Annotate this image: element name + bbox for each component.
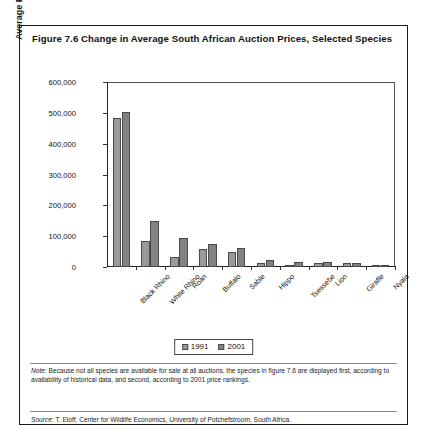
legend-swatch-2001 — [219, 344, 225, 350]
bar-1991 — [113, 118, 122, 267]
bar-group — [251, 82, 280, 267]
y-tick-label: 100,000 — [49, 232, 76, 241]
bar-1991 — [285, 265, 294, 267]
x-tick-mark — [395, 266, 396, 270]
source-label: Source: — [31, 416, 54, 423]
bar-1991 — [199, 249, 208, 267]
figure-source: Source: T. Eloff, Center for Wildlife Ec… — [31, 416, 397, 425]
figure-container: Figure 7.6 Change in Average South Afric… — [19, 25, 408, 425]
bar-2001 — [150, 221, 159, 267]
figure-note: Note: Because not all species are availa… — [31, 367, 397, 384]
x-category-label: Black Rhino — [138, 272, 171, 305]
bar-1991 — [228, 252, 237, 267]
x-category-label: Giraffe — [364, 272, 386, 294]
bar-1991 — [372, 265, 381, 267]
x-tick-mark — [165, 266, 166, 270]
bar-1991 — [343, 263, 352, 267]
legend-item: 2001 — [219, 342, 246, 351]
x-category-label: Sable — [248, 272, 267, 291]
bar-2001 — [237, 248, 246, 267]
x-tick-mark — [136, 266, 137, 270]
bar-2001 — [266, 260, 275, 267]
bar-1991 — [314, 263, 323, 267]
bar-group — [337, 82, 366, 267]
legend-label: 1991 — [191, 342, 209, 351]
bar-group — [136, 82, 165, 267]
bar-group — [193, 82, 222, 267]
bar-group — [309, 82, 338, 267]
x-category-label: Buffalo — [220, 272, 242, 294]
bar-group — [165, 82, 194, 267]
divider-above-source — [30, 411, 397, 412]
y-tick-label: 400,000 — [49, 139, 76, 148]
y-axis-title: Average Price (rand) — [14, 0, 24, 86]
y-tick-label: 0 — [72, 263, 76, 272]
legend-swatch-1991 — [182, 344, 188, 350]
x-category-label: Nyala — [392, 272, 411, 291]
bar-1991 — [257, 263, 266, 267]
bar-group — [366, 82, 395, 267]
bar-2001 — [294, 262, 303, 267]
bar-series-layer — [107, 82, 395, 267]
chart-legend: 19912001 — [174, 339, 254, 355]
x-category-label: Lion — [333, 272, 349, 288]
x-tick-mark — [251, 266, 252, 270]
y-tick-label: 600,000 — [49, 78, 76, 87]
bar-2001 — [352, 263, 361, 267]
note-text: Because not all species are available fo… — [31, 367, 389, 383]
bar-2001 — [179, 238, 188, 267]
note-label: Note: — [31, 367, 47, 374]
x-tick-mark — [337, 266, 338, 270]
x-category-label: Tsessebe — [309, 272, 337, 300]
bar-group — [280, 82, 309, 267]
x-tick-mark — [280, 266, 281, 270]
bar-2001 — [323, 262, 332, 267]
x-tick-mark — [309, 266, 310, 270]
figure-title: Figure 7.6 Change in Average South Afric… — [32, 33, 394, 45]
y-tick-mark — [103, 267, 107, 268]
x-tick-mark — [366, 266, 367, 270]
legend-label: 2001 — [228, 342, 246, 351]
legend-item: 1991 — [182, 342, 209, 351]
bar-group — [107, 82, 136, 267]
x-tick-mark — [193, 266, 194, 270]
y-tick-label: 300,000 — [49, 170, 76, 179]
source-text: T. Eloff, Center for Wildlife Economics,… — [54, 416, 291, 423]
bar-1991 — [141, 241, 150, 267]
y-tick-label: 500,000 — [49, 108, 76, 117]
x-tick-mark — [222, 266, 223, 270]
bar-2001 — [122, 112, 131, 267]
bar-group — [222, 82, 251, 267]
x-category-label: Hippo — [277, 272, 297, 292]
y-tick-label: 200,000 — [49, 201, 76, 210]
divider-above-note — [30, 363, 397, 364]
bar-1991 — [170, 257, 179, 267]
bar-2001 — [381, 265, 390, 267]
bar-2001 — [208, 244, 217, 267]
